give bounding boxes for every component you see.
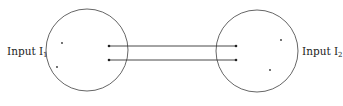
- left-interior-point: [61, 42, 63, 44]
- connection-endpoint-dot: [108, 59, 111, 62]
- right-input-circle: [216, 10, 298, 92]
- left-input-circle: [46, 9, 128, 91]
- right-input-label: Input I2: [302, 45, 343, 59]
- right-interior-point: [280, 39, 282, 41]
- connection-endpoint-dot: [235, 59, 238, 62]
- connection-endpoint-dot: [108, 45, 111, 48]
- right-interior-point: [269, 69, 271, 71]
- matching-diagram: Input I1 Input I2: [0, 0, 343, 106]
- left-interior-point: [56, 66, 58, 68]
- left-input-label: Input I1: [7, 45, 48, 59]
- connection-endpoint-dot: [235, 45, 238, 48]
